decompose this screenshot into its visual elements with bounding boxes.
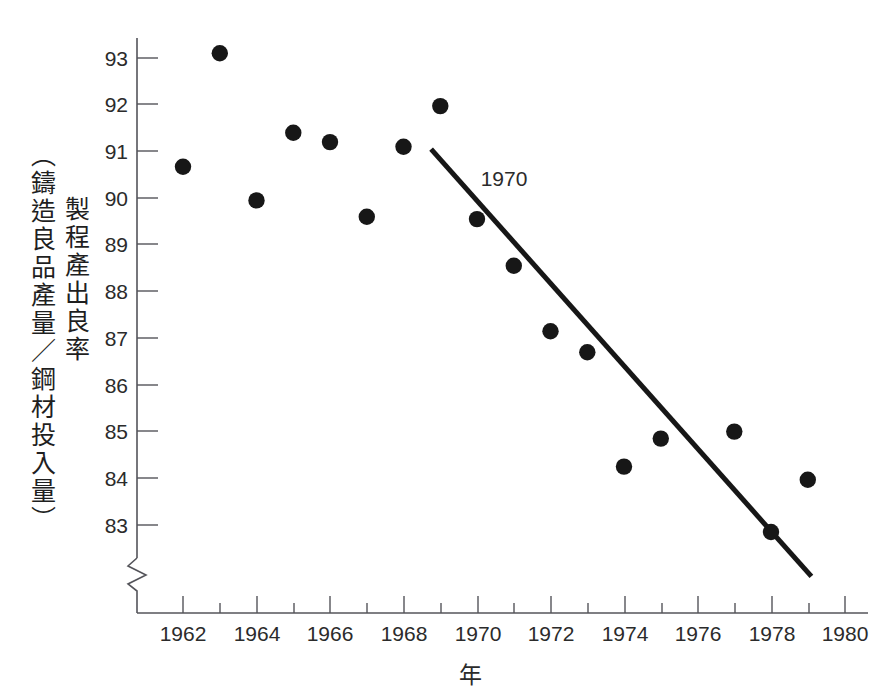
trend-line <box>431 149 811 576</box>
data-point <box>395 139 411 155</box>
data-point <box>322 134 338 150</box>
y-axis-title-inner: 製程產出良率 <box>62 196 89 364</box>
data-point <box>616 458 632 474</box>
x-axis-ticks <box>183 596 845 613</box>
data-point <box>726 423 742 439</box>
x-axis-tick-labels: 1962 1964 1966 1968 1970 1972 1974 1976 … <box>160 622 869 645</box>
x-tick-label: 1976 <box>675 622 722 645</box>
y-tick-label: 92 <box>105 93 128 116</box>
data-point <box>506 258 522 274</box>
data-point <box>359 209 375 225</box>
y-tick-label: 89 <box>105 233 128 256</box>
x-tick-label: 1972 <box>528 622 575 645</box>
data-point <box>579 344 595 360</box>
y-tick-label: 87 <box>105 327 128 350</box>
y-axis-tick-labels: 93 92 91 90 89 88 87 86 85 84 83 <box>105 47 129 537</box>
x-tick-label: 1970 <box>455 622 502 645</box>
x-tick-label: 1962 <box>160 622 207 645</box>
x-axis-title: 年 <box>459 662 482 688</box>
data-point <box>432 98 448 114</box>
y-tick-label: 93 <box>105 47 128 70</box>
y-tick-label: 84 <box>105 467 129 490</box>
data-point <box>800 472 816 488</box>
data-point <box>542 323 558 339</box>
data-point <box>212 45 228 61</box>
x-tick-label: 1980 <box>822 622 869 645</box>
x-tick-label: 1968 <box>381 622 428 645</box>
data-point <box>763 524 779 540</box>
y-tick-label: 88 <box>105 280 128 303</box>
axis-break-zigzag-icon <box>128 558 146 613</box>
y-tick-label: 86 <box>105 374 128 397</box>
plot-canvas: 93 92 91 90 89 88 87 86 85 84 83 <box>0 0 891 696</box>
y-tick-label: 91 <box>105 140 128 163</box>
x-tick-label: 1974 <box>602 622 649 645</box>
y-axis-title-outer: （鑄造良品產量／鋼材投入量） <box>28 142 55 534</box>
data-point <box>175 159 191 175</box>
yield-scatter-figure: …………… 製程產出良率 （鑄造良品產量／鋼材投入量） 93 92 91 <box>0 0 891 696</box>
data-point <box>248 192 264 208</box>
data-point <box>653 430 669 446</box>
data-point <box>285 125 301 141</box>
x-tick-label: 1978 <box>749 622 796 645</box>
y-tick-label: 85 <box>105 420 128 443</box>
data-point <box>469 211 485 227</box>
x-tick-label: 1966 <box>307 622 354 645</box>
y-axis-ticks <box>137 58 158 525</box>
cropped-header-text: …………… <box>34 0 324 2</box>
y-tick-label: 90 <box>105 187 128 210</box>
y-tick-label: 83 <box>105 514 128 537</box>
data-point-group <box>175 45 816 540</box>
x-tick-label: 1964 <box>234 622 281 645</box>
annotation-label-1970: 1970 <box>481 167 528 190</box>
